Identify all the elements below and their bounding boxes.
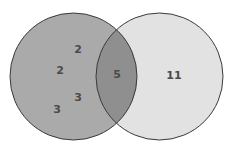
left-value-2: 2	[56, 64, 64, 77]
venn-diagram: 2 2 3 3 5 11	[0, 0, 227, 147]
left-value-4: 3	[53, 103, 61, 116]
left-value-3: 3	[74, 91, 82, 104]
intersection-value: 5	[113, 68, 121, 81]
right-value: 11	[166, 69, 181, 82]
left-value-1: 2	[74, 43, 82, 56]
